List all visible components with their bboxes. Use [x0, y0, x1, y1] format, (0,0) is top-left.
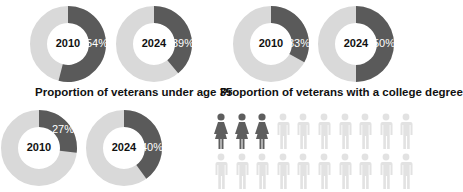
donut-college-2024: 2024 50%: [317, 5, 395, 83]
caption-college: Proportion of veterans with a college de…: [220, 86, 463, 98]
man-icon: [252, 152, 272, 192]
donut-year-label: 2010: [0, 141, 78, 153]
man-icon: [273, 152, 293, 192]
donut-segment: [271, 6, 309, 62]
man-icon: [314, 112, 334, 152]
donut-percent-label: 33%: [288, 37, 310, 49]
man-icon: [211, 152, 231, 192]
woman-icon: [232, 112, 252, 152]
man-icon: [314, 152, 334, 192]
donut-percent-label: 40%: [141, 141, 163, 153]
pictogram-row: [211, 112, 423, 152]
man-icon: [273, 112, 293, 152]
donut-percent-label: 54%: [86, 37, 108, 49]
man-icon: [355, 152, 375, 192]
man-icon: [376, 112, 396, 152]
pictogram-row: [211, 152, 423, 192]
man-icon: [355, 112, 375, 152]
pictogram: [211, 112, 423, 192]
donut-third-2024: 2024 40%: [85, 109, 163, 187]
donut-percent-label: 50%: [373, 37, 395, 49]
donut-percent-label: 39%: [172, 37, 194, 49]
man-icon: [293, 112, 313, 152]
man-icon: [396, 152, 416, 192]
donut-third-2010: 2010 27%: [0, 109, 78, 187]
woman-icon: [252, 112, 272, 152]
donut-under35-2024: 2024 39%: [115, 5, 193, 83]
man-icon: [335, 152, 355, 192]
man-icon: [376, 152, 396, 192]
man-icon: [293, 152, 313, 192]
man-icon: [396, 112, 416, 152]
caption-under35: Proportion of veterans under age 35: [35, 86, 232, 98]
donut-college-2010: 2010 33%: [232, 5, 310, 83]
woman-icon: [211, 112, 231, 152]
donut-percent-label: 27%: [52, 123, 74, 135]
man-icon: [232, 152, 252, 192]
man-icon: [335, 112, 355, 152]
donut-under35-2010: 2010 54%: [29, 5, 107, 83]
